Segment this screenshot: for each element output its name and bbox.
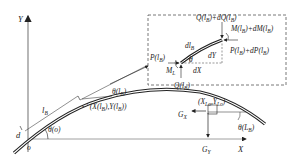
moment-left-label: ML <box>165 66 175 76</box>
theta-origin-label: θ(o) <box>48 125 61 134</box>
gx-label: GX <box>178 110 187 120</box>
theta-lb-marker: θ(lB) - ' (X(lB),Y(lB)) <box>80 65 148 112</box>
inset-theta-label: θ <box>189 55 193 64</box>
diameter-label: d <box>16 130 21 140</box>
x-axis-label: X <box>237 144 244 154</box>
free-body-diagram: Y X o θ(o) d lB θ(lB) - ' (X(lB),Y(lB)) <box>0 0 298 161</box>
end-theta-label: θ(LB) <box>238 123 255 133</box>
shear-bottom-label: Q(lB) <box>174 81 190 91</box>
arc-length-label: lB <box>42 105 48 116</box>
theta-origin-marker: θ(o) <box>45 125 61 139</box>
inset-dy-label: dY <box>208 51 217 60</box>
shear-top-label: Q(lB)+dQ(lB) <box>196 13 237 23</box>
inset-dl-label: dlB <box>185 41 195 51</box>
zoom-arrow <box>110 66 148 84</box>
point-coords-label: - ' (X(lB),Y(lB)) <box>82 102 127 112</box>
end-point: (XLo,YLo) GX GY θ(LB) <box>178 97 255 155</box>
origin-label: o <box>27 143 31 152</box>
inset-element: dX dY θ dlB Q(lB)+dQ(lB) M(lB)+dM(lB) P(… <box>149 13 274 91</box>
diameter-marker: d <box>16 126 22 140</box>
inset-dx-label: dX <box>193 66 202 75</box>
y-axis-label: Y <box>18 14 24 24</box>
gy-label: GY <box>202 145 211 155</box>
theta-lb-label: θ(lB) <box>112 87 127 97</box>
moment-top-label: M(lB)+dM(lB) <box>230 24 274 34</box>
axial-left-label: P(lB) <box>149 53 166 63</box>
axial-right-label: P(lB)+dP(lB) <box>229 46 269 56</box>
rod-curve <box>14 89 265 153</box>
